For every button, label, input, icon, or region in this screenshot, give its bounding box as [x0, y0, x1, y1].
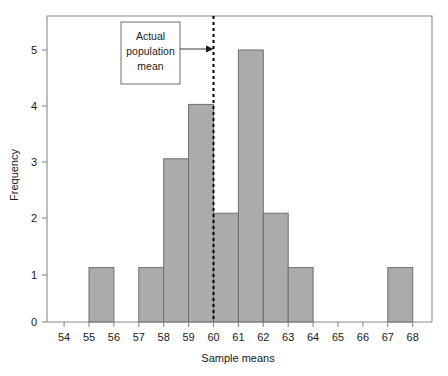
y-axis-title: Frequency [8, 149, 20, 201]
annotation-line-1: Actual [136, 30, 165, 42]
y-tick-label-3: 3 [31, 156, 37, 168]
x-tick-label-62: 62 [257, 331, 269, 343]
x-tick-label-65: 65 [332, 331, 344, 343]
y-tick-label-0: 0 [31, 316, 37, 328]
x-tick-label-67: 67 [382, 331, 394, 343]
x-tick-label-59: 59 [182, 331, 194, 343]
histogram-chart: 0 1 2 3 4 5 Frequency Actual population … [0, 0, 448, 376]
bars-group [89, 50, 413, 322]
bar-55-56 [89, 268, 114, 322]
bar-57-58 [139, 268, 164, 322]
x-tick-label-66: 66 [357, 331, 369, 343]
y-tick-label-1: 1 [31, 269, 37, 281]
bar-60-61 [214, 213, 239, 322]
x-tick-label-58: 58 [158, 331, 170, 343]
x-tick-label-56: 56 [108, 331, 120, 343]
x-tick-label-57: 57 [133, 331, 145, 343]
bar-63-64 [288, 268, 313, 322]
y-axis: 0 1 2 3 4 5 Frequency [8, 44, 47, 328]
x-tick-label-60: 60 [207, 331, 219, 343]
bar-62-63 [263, 213, 288, 322]
bar-67-68 [388, 268, 413, 322]
x-tick-label-54: 54 [58, 331, 70, 343]
y-tick-label-2: 2 [31, 212, 37, 224]
x-axis-title: Sample means [201, 352, 275, 364]
annotation-line-3: mean [137, 60, 163, 72]
x-tick-label-61: 61 [232, 331, 244, 343]
chart-canvas: 0 1 2 3 4 5 Frequency Actual population … [0, 0, 448, 376]
annotation-line-2: population [126, 45, 175, 57]
x-tick-label-63: 63 [282, 331, 294, 343]
x-axis: 54 55 56 57 58 59 60 61 62 63 64 65 [58, 322, 419, 364]
y-tick-label-5: 5 [31, 44, 37, 56]
bar-61-62 [238, 50, 263, 322]
bar-58-59 [164, 159, 189, 322]
x-tick-label-55: 55 [83, 331, 95, 343]
y-tick-label-4: 4 [31, 100, 37, 112]
x-tick-label-64: 64 [307, 331, 319, 343]
x-tick-label-68: 68 [407, 331, 419, 343]
annotation-arrow-head-icon [206, 46, 214, 53]
annotation-actual-population-mean: Actual population mean [121, 22, 214, 84]
bar-59-60 [189, 104, 214, 322]
